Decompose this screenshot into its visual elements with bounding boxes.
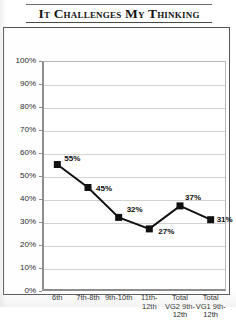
y-axis-tick — [39, 84, 42, 85]
data-point-marker — [85, 184, 92, 191]
y-axis-tick-label: 20% — [2, 241, 36, 249]
y-axis-tick — [39, 245, 42, 246]
y-axis-tick-label: 90% — [2, 80, 36, 88]
data-point-label: 37% — [185, 194, 201, 202]
y-axis-tick-label: 60% — [2, 149, 36, 157]
data-point-marker — [54, 161, 61, 168]
data-point-marker — [115, 214, 122, 221]
y-axis-tick-label: 30% — [2, 218, 36, 226]
data-point-label: 32% — [127, 206, 143, 214]
y-axis-tick-label: 80% — [2, 103, 36, 111]
title-rule-top — [26, 4, 212, 5]
line-series — [42, 61, 226, 291]
data-point-marker — [207, 216, 214, 223]
y-axis-tick — [39, 291, 42, 292]
y-axis-tick — [39, 61, 42, 62]
title-rule-bottom — [26, 22, 212, 23]
y-axis-tick-label: 100% — [2, 57, 36, 65]
y-axis-tick-label: 50% — [2, 172, 36, 180]
y-axis-tick — [39, 268, 42, 269]
data-point-marker — [177, 202, 184, 209]
data-point-marker — [146, 225, 153, 232]
data-point-label: 45% — [96, 185, 112, 193]
y-axis-tick — [39, 222, 42, 223]
data-point-label: 27% — [158, 228, 174, 236]
y-axis-tick — [39, 130, 42, 131]
y-axis-tick — [39, 153, 42, 154]
y-axis-tick-label: 0% — [2, 287, 36, 295]
x-axis-tick-label: TotalVG1 9th-12th — [192, 294, 229, 320]
y-axis-tick-label: 10% — [2, 264, 36, 272]
y-axis-tick — [39, 199, 42, 200]
chart-title-block: It Challenges My Thinking — [24, 4, 214, 23]
data-point-label: 31% — [217, 216, 233, 224]
data-point-label: 55% — [64, 155, 80, 163]
y-axis-tick-label: 70% — [2, 126, 36, 134]
y-axis-tick-label: 40% — [2, 195, 36, 203]
chart-frame: 100%90%80%70%60%50%40%30%20%10%0%6th7th-… — [3, 27, 230, 295]
page-title: It Challenges My Thinking — [24, 6, 214, 21]
y-axis-tick — [39, 176, 42, 177]
y-axis-tick — [39, 107, 42, 108]
